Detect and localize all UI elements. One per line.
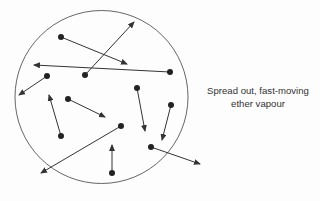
velocity-arrow-icon [41, 126, 121, 173]
label-line-1: Spread out, fast-moving [200, 84, 316, 97]
particle [49, 95, 64, 139]
particle [65, 96, 105, 117]
particle [58, 34, 127, 64]
velocity-arrow-icon [162, 105, 171, 140]
velocity-arrow-icon [137, 88, 145, 131]
velocity-arrow-icon [19, 76, 47, 95]
molecule-dot-icon [168, 102, 174, 108]
molecule-dot-icon [134, 85, 140, 91]
particle [134, 85, 145, 131]
velocity-arrow-icon [61, 37, 127, 64]
particle [19, 73, 50, 95]
molecule-dot-icon [44, 73, 50, 79]
particle [34, 65, 173, 75]
velocity-arrow-icon [85, 22, 134, 75]
particle [109, 145, 115, 176]
ether-vapour-diagram: Spread out, fast-moving ether vapour [0, 0, 320, 201]
molecule-dot-icon [167, 69, 173, 75]
velocity-arrow-icon [151, 147, 200, 164]
molecule-dot-icon [82, 72, 88, 78]
particle [162, 102, 174, 140]
diagram-label: Spread out, fast-moving ether vapour [200, 84, 316, 110]
velocity-arrow-icon [49, 95, 61, 136]
molecule-dot-icon [58, 34, 64, 40]
molecule-dot-icon [148, 144, 154, 150]
velocity-arrow-icon [68, 99, 105, 117]
container-circle [15, 11, 188, 184]
particle [148, 144, 200, 164]
molecule-dot-icon [109, 170, 115, 176]
molecule-dot-icon [58, 133, 64, 139]
particles-group [19, 22, 200, 176]
label-line-2: ether vapour [200, 97, 316, 110]
molecule-dot-icon [118, 123, 124, 129]
molecule-dot-icon [65, 96, 71, 102]
velocity-arrow-icon [34, 65, 170, 72]
